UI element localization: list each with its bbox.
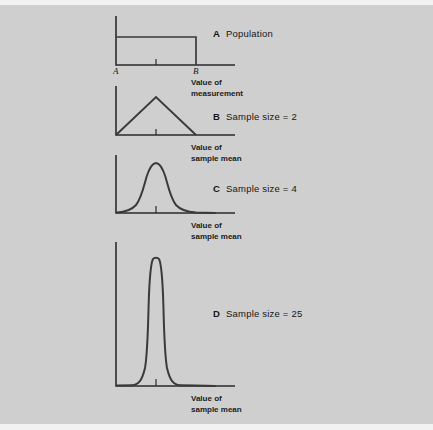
panel-b-letter: B xyxy=(213,111,220,122)
panel-d-label: DSample size = 25 xyxy=(213,308,302,319)
panel-d-axis-caption-line1: Value of xyxy=(191,394,242,405)
panel-b-title: Sample size = 2 xyxy=(226,111,297,122)
panel-d-normal-curve xyxy=(117,258,215,386)
panel-d-axis-caption: Value of sample mean xyxy=(191,394,242,415)
panel-a-axis-caption: Value of measurement xyxy=(191,78,243,99)
panel-c-label: CSample size = 4 xyxy=(213,183,297,194)
panel-a-letter: A xyxy=(213,28,220,39)
panel-c-axis-caption-line2: sample mean xyxy=(191,232,242,243)
panel-c-axis-caption-line1: Value of xyxy=(191,221,242,232)
panel-b-axis-caption-line1: Value of xyxy=(191,143,242,154)
panel-d-letter: D xyxy=(213,308,220,319)
panel-c-letter: C xyxy=(213,183,220,194)
panel-a-tick-label-a: A xyxy=(113,66,119,76)
panel-a-label: APopulation xyxy=(213,28,273,39)
panel-c-title: Sample size = 4 xyxy=(226,183,297,194)
panel-c-axis-caption: Value of sample mean xyxy=(191,221,242,242)
panel-c-normal-curve xyxy=(117,163,215,213)
panel-d-title: Sample size = 25 xyxy=(226,308,302,319)
panel-a-tick-label-b: B xyxy=(193,66,199,76)
panel-b-label: BSample size = 2 xyxy=(213,111,297,122)
panel-d-axis-caption-line2: sample mean xyxy=(191,405,242,416)
panel-a-axis-caption-line2: measurement xyxy=(191,89,243,100)
panel-a-graph xyxy=(116,16,235,65)
panel-a-axes xyxy=(116,16,235,65)
figure-canvas: APopulation A B Value of measurement BSa… xyxy=(0,0,433,430)
panel-a-title: Population xyxy=(226,28,273,39)
sampling-distribution-plot xyxy=(0,0,433,430)
panel-a-axis-caption-line1: Value of xyxy=(191,78,243,89)
panel-b-axis-caption: Value of sample mean xyxy=(191,143,242,164)
panel-b-axis-caption-line2: sample mean xyxy=(191,154,242,165)
